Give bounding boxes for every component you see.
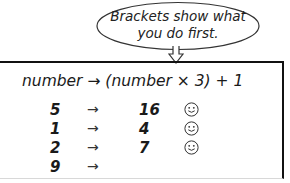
- rule-formula: number → (number × 3) + 1: [22, 72, 243, 90]
- smiley-face-icon: [184, 102, 199, 117]
- input-value: 5: [50, 101, 60, 119]
- input-value: 9: [50, 158, 60, 176]
- callout-line-2: you do first.: [96, 25, 260, 42]
- callout-text: Brackets show what you do first.: [96, 8, 260, 42]
- table-row: 5 → 16: [0, 101, 290, 120]
- table-row: 1 → 4: [0, 120, 290, 139]
- output-value: 4: [139, 120, 149, 138]
- callout-line-1: Brackets show what: [96, 8, 260, 25]
- arrow-icon: →: [87, 158, 99, 174]
- input-value: 1: [50, 120, 60, 138]
- smiley-face-icon: [184, 121, 199, 136]
- arrow-icon: →: [87, 101, 99, 117]
- arrow-icon: →: [87, 120, 99, 136]
- table-row: 9 →: [0, 158, 290, 177]
- arrow-icon: →: [87, 139, 99, 155]
- output-value: 16: [139, 101, 160, 119]
- input-value: 2: [50, 139, 60, 157]
- output-value: 7: [139, 139, 149, 157]
- table-row: 2 → 7: [0, 139, 290, 158]
- speech-bubble: Brackets show what you do first.: [96, 2, 260, 50]
- smiley-face-icon: [184, 140, 199, 155]
